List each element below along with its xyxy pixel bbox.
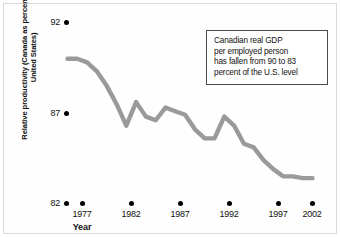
annotation-line-1: Canadian real GDP: [214, 36, 321, 47]
chart-figure: Relative productivity (Canada as percent…: [0, 0, 340, 237]
annotation-line-3: has fallen from 90 to 83: [214, 57, 321, 68]
annotation-line-4: percent of the U.S. level: [214, 68, 321, 79]
annotation-callout: Canadian real GDP per employed person ha…: [206, 30, 328, 85]
annotation-line-2: per employed person: [214, 47, 321, 58]
